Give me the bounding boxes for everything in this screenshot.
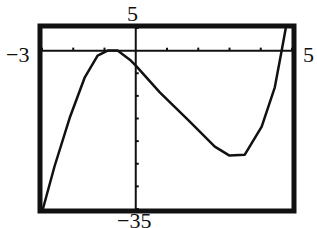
function-curve: [43, 28, 286, 209]
graph-plot: [0, 0, 317, 228]
graph-frame: [40, 26, 294, 211]
axes: [42, 28, 292, 209]
